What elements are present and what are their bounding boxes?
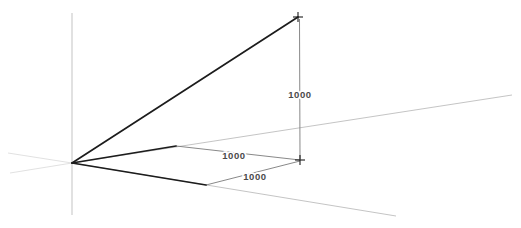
depth-dimension-lower-label: 1000 [243,171,267,182]
vertical-dimension-label: 1000 [288,89,312,100]
depth-axis-upper-left-line [8,153,72,163]
middle-edge-line [72,146,176,163]
upper-diagonal-edge-line [72,17,298,163]
diagram-canvas: 1000 1000 1000 [0,0,521,228]
edges-group [72,17,298,185]
diagram-svg: 1000 1000 1000 [0,0,521,228]
dimension-labels-group: 1000 1000 1000 [222,89,312,182]
depth-axis-lower-left-line [10,163,72,173]
apex-marker-icon [293,12,303,22]
lower-edge-line [72,163,206,185]
depth-dimension-upper-label: 1000 [222,150,246,161]
axis-lines-group [8,13,512,216]
base-corner-marker-icon [295,155,305,165]
